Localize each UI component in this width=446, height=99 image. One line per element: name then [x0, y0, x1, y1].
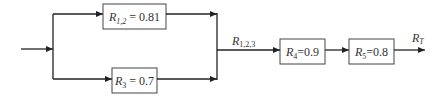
label-r123: R1,2,3	[231, 34, 255, 49]
label-r4: R4=0.9	[285, 45, 319, 61]
label-rt: RT	[411, 31, 424, 46]
label-r3: R3 = 0.7	[114, 74, 154, 90]
label-r12: R1,2 = 0.81	[108, 10, 160, 26]
label-r5: R5=0.8	[354, 45, 388, 61]
reliability-diagram: R1,2 = 0.81 R3 = 0.7 R4=0.9 R5=0.8 R1,2,…	[0, 0, 446, 99]
diagram-svg: R1,2 = 0.81 R3 = 0.7 R4=0.9 R5=0.8 R1,2,…	[0, 0, 446, 99]
